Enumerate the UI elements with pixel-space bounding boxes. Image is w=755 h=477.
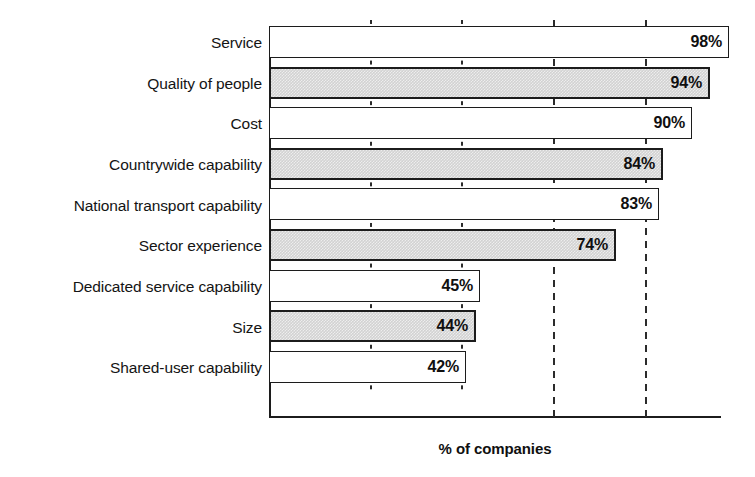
bar-value-label: 98% [691, 34, 728, 50]
bar-countrywide-capability: 84% [269, 148, 663, 180]
bar-cost: 90% [269, 107, 692, 139]
bar-national-transport-capability: 83% [269, 188, 659, 220]
bar-value-label: 84% [624, 156, 661, 172]
bar-dedicated-service-capability: 45% [269, 270, 480, 302]
bar-size: 44% [269, 310, 476, 342]
category-label: Service [211, 35, 262, 51]
category-label: Countrywide capability [109, 157, 262, 173]
bar-value-label: 90% [654, 115, 691, 131]
bar-value-label: 45% [442, 278, 479, 294]
x-axis-title: % of companies [269, 440, 721, 457]
x-axis-line [269, 416, 721, 418]
bar-value-label: 42% [428, 359, 465, 375]
bar-shared-user-capability: 42% [269, 351, 466, 383]
plot-area: 98% 94% 90% 84% 83% 74% 45% 44% 42% [269, 20, 721, 417]
bar-value-label: 83% [621, 196, 658, 212]
category-label: Dedicated service capability [73, 279, 262, 295]
bar-sector-experience: 74% [269, 229, 616, 261]
category-label: Quality of people [147, 76, 262, 92]
bar-value-label: 44% [437, 318, 474, 334]
category-label: Shared-user capability [110, 360, 262, 376]
bar-service: 98% [269, 26, 729, 58]
category-label: Sector experience [139, 238, 262, 254]
bar-value-label: 74% [577, 237, 614, 253]
bar-value-label: 94% [671, 75, 708, 91]
category-label: Cost [231, 116, 262, 132]
category-label: National transport capability [74, 198, 262, 214]
category-label: Size [232, 320, 262, 336]
bar-chart: Service Quality of people Cost Countrywi… [0, 0, 755, 477]
bar-quality-of-people: 94% [269, 67, 710, 99]
